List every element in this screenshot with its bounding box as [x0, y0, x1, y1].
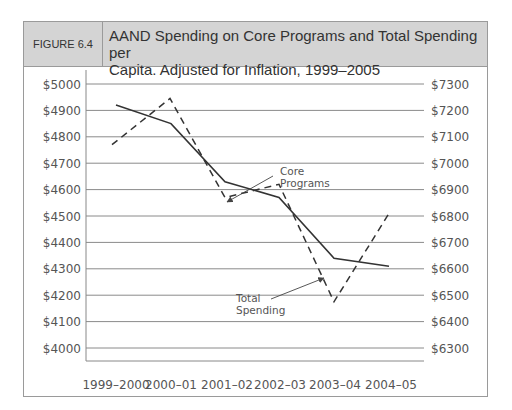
left-tick-label: $4800 [43, 130, 81, 144]
left-tick-label: $4000 [43, 342, 81, 356]
core-arrow [227, 176, 273, 202]
core-label-2: Programs [280, 177, 330, 189]
right-tick-label: $7300 [431, 78, 469, 92]
total-label-1: Total [235, 292, 261, 304]
right-tick-label: $6500 [431, 289, 469, 303]
right-tick-label: $6300 [431, 342, 469, 356]
right-axis-ticks: $7300$7200$7100$7000$6900$6800$6700$6600… [431, 78, 469, 356]
right-tick-label: $6400 [431, 315, 469, 329]
left-tick-label: $4500 [43, 210, 81, 224]
x-tick-label: 2004–05 [365, 378, 417, 392]
x-tick-label: 1999–2000 [82, 378, 149, 392]
left-tick-label: $4100 [43, 315, 81, 329]
left-tick-label: $4300 [43, 262, 81, 276]
left-tick-label: $5000 [43, 78, 81, 92]
right-tick-label: $6800 [431, 210, 469, 224]
left-tick-label: $4200 [43, 289, 81, 303]
left-tick-label: $4600 [43, 183, 81, 197]
right-tick-label: $7200 [431, 104, 469, 118]
x-axis-ticks: 1999–20002000–012001–022002–032003–04200… [82, 378, 416, 392]
line-chart: $5000$4900$4800$4700$4600$4500$4400$4300… [0, 0, 512, 410]
x-tick-label: 2001–02 [201, 378, 253, 392]
left-tick-label: $4900 [43, 104, 81, 118]
x-tick-label: 2003–04 [309, 378, 361, 392]
left-axis-ticks: $5000$4900$4800$4700$4600$4500$4400$4300… [43, 78, 81, 356]
total-arrow [271, 278, 324, 299]
left-tick-label: $4400 [43, 236, 81, 250]
right-tick-label: $6700 [431, 236, 469, 250]
total-spending-line [112, 99, 389, 302]
left-tick-label: $4700 [43, 157, 81, 171]
total-label-2: Spending [236, 304, 285, 316]
right-tick-label: $6900 [431, 183, 469, 197]
right-tick-label: $6600 [431, 262, 469, 276]
right-tick-label: $7100 [431, 130, 469, 144]
right-tick-label: $7000 [431, 157, 469, 171]
x-tick-label: 2000–01 [145, 378, 197, 392]
core-label-1: Core [280, 165, 304, 177]
x-tick-label: 2002–03 [254, 378, 306, 392]
